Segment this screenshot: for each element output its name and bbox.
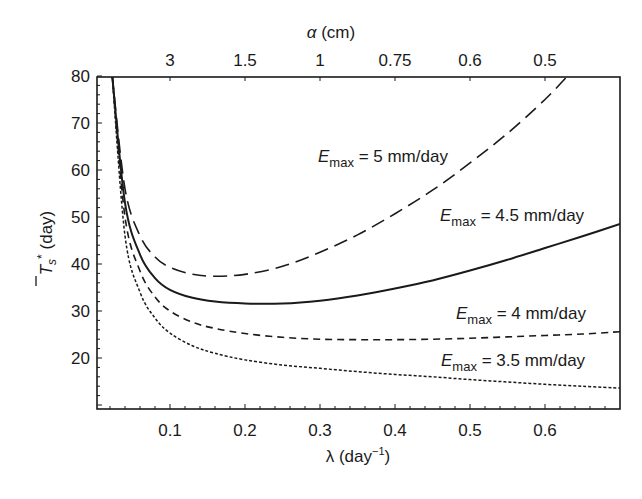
x-tick-label: 0.6	[533, 421, 557, 440]
x-tick-label: 0.3	[308, 421, 332, 440]
y-tick-label: 60	[71, 161, 90, 180]
top-x-tick-label: 3	[165, 51, 174, 70]
x-axis-title: λ (day−1)	[326, 445, 391, 466]
series-line	[112, 76, 620, 304]
y-tick-label: 20	[71, 349, 90, 368]
top-axis-title: α (cm)	[307, 23, 355, 42]
top-x-tick-label: 1	[315, 51, 324, 70]
tick-labels: 0.130.21.50.310.40.750.50.60.60.52030405…	[71, 51, 557, 440]
series-line	[112, 76, 567, 276]
y-tick-label: 70	[71, 114, 90, 133]
series-label-5: Emax = 5 mm/day	[318, 147, 448, 170]
top-x-tick-label: 0.5	[533, 51, 557, 70]
series-label-4-5: Emax = 4.5 mm/day	[440, 206, 585, 229]
series-label-3-5: Emax = 3.5 mm/day	[441, 351, 586, 374]
chart: 0.130.21.50.310.40.750.50.60.60.52030405…	[0, 0, 642, 499]
x-tick-label: 0.1	[158, 421, 182, 440]
series-label-4: Emax = 4 mm/day	[456, 304, 586, 327]
y-tick-label: 40	[71, 255, 90, 274]
y-tick-label: 30	[71, 302, 90, 321]
x-tick-label: 0.4	[383, 421, 407, 440]
top-x-tick-label: 1.5	[233, 51, 257, 70]
series-lines	[112, 76, 620, 388]
x-tick-label: 0.5	[458, 421, 482, 440]
y-tick-label: 50	[71, 208, 90, 227]
top-x-tick-label: 0.6	[458, 51, 482, 70]
y-axis-title: Ts* (day)	[35, 211, 59, 286]
top-x-tick-label: 0.75	[378, 51, 411, 70]
x-tick-label: 0.2	[233, 421, 257, 440]
y-tick-label: 80	[71, 67, 90, 86]
svg-text:Ts* (day): Ts* (day)	[35, 211, 59, 276]
series-line	[112, 76, 620, 388]
